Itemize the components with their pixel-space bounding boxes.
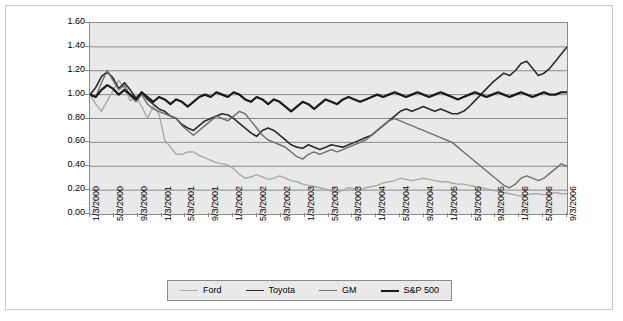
x-axis-tick-mark xyxy=(566,213,567,217)
x-axis-tick-label: 9/3/2001 xyxy=(211,186,220,221)
y-axis-tick-mark xyxy=(85,165,89,166)
y-axis-tick-mark xyxy=(85,189,89,190)
x-axis-tick-mark xyxy=(89,213,90,217)
x-axis-tick-mark xyxy=(232,213,233,217)
y-axis-tick-mark xyxy=(85,70,89,71)
y-axis-tick-mark xyxy=(85,22,89,23)
x-axis-tick-label: 5/3/2001 xyxy=(187,186,196,221)
x-axis-tick-mark xyxy=(328,213,329,217)
x-axis-tick-label: 9/3/2004 xyxy=(426,186,435,221)
y-axis-tick-mark xyxy=(85,213,89,214)
legend-swatch-icon xyxy=(246,290,264,291)
series-line-gm xyxy=(90,71,567,188)
x-axis-tick-mark xyxy=(423,213,424,217)
x-axis-tick-label: 9/3/2002 xyxy=(283,186,292,221)
x-axis-tick-label: 9/3/2000 xyxy=(140,186,149,221)
x-axis-tick-label: 5/3/2003 xyxy=(331,186,340,221)
legend-item-gm[interactable]: GM xyxy=(319,286,357,295)
x-axis-tick-label: 9/3/2003 xyxy=(354,186,363,221)
x-axis-tick-label: 5/3/2004 xyxy=(402,186,411,221)
x-axis-tick-label: 1/3/2003 xyxy=(307,186,316,221)
legend-swatch-icon xyxy=(319,290,337,291)
x-axis-tick-label: 5/3/2005 xyxy=(474,186,483,221)
x-axis-tick-label: 9/3/2006 xyxy=(569,186,578,221)
series-line-s-p-500 xyxy=(90,85,567,111)
legend-label: S&P 500 xyxy=(404,286,439,295)
y-axis-tick-label: 0.20 xyxy=(41,184,85,193)
x-axis-tick-mark xyxy=(137,213,138,217)
x-axis-tick-label: 1/3/2002 xyxy=(235,186,244,221)
x-axis-tick-mark xyxy=(256,213,257,217)
x-axis-tick-mark xyxy=(542,213,543,217)
y-axis-tick-mark xyxy=(85,141,89,142)
legend-swatch-icon xyxy=(180,290,198,291)
x-axis-tick-mark xyxy=(399,213,400,217)
legend-item-ford[interactable]: Ford xyxy=(180,286,222,295)
y-axis-tick-mark xyxy=(85,46,89,47)
x-axis-tick-mark xyxy=(161,213,162,217)
y-axis-tick-label: 0.40 xyxy=(41,160,85,169)
y-axis-tick-mark xyxy=(85,118,89,119)
legend-label: Toyota xyxy=(269,286,296,295)
x-axis-tick-mark xyxy=(280,213,281,217)
x-axis-tick-label: 1/3/2004 xyxy=(378,186,387,221)
x-axis-tick-label: 5/3/2006 xyxy=(545,186,554,221)
legend-label: GM xyxy=(342,286,357,295)
y-axis-tick-mark xyxy=(85,94,89,95)
x-axis-tick-label: 1/3/2006 xyxy=(521,186,530,221)
y-axis-tick-label: 1.40 xyxy=(41,41,85,50)
x-axis-tick-mark xyxy=(447,213,448,217)
legend-label: Ford xyxy=(203,286,222,295)
legend-swatch-icon xyxy=(381,290,399,292)
x-axis-tick-label: 5/3/2000 xyxy=(116,186,125,221)
y-axis-tick-label: 0.00 xyxy=(41,208,85,217)
legend-item-toyota[interactable]: Toyota xyxy=(246,286,296,295)
x-axis-tick-label: 1/3/2000 xyxy=(92,186,101,221)
x-axis: 1/3/20005/3/20009/3/20001/3/20015/3/2001… xyxy=(89,217,568,277)
stock-performance-chart: 1.601.401.201.000.800.600.400.200.00 1/3… xyxy=(0,0,623,321)
x-axis-tick-label: 5/3/2002 xyxy=(259,186,268,221)
y-axis: 1.601.401.201.000.800.600.400.200.00 xyxy=(38,0,85,240)
x-axis-tick-mark xyxy=(304,213,305,217)
legend-item-s-p-500[interactable]: S&P 500 xyxy=(381,286,439,295)
chart-legend: FordToyotaGMS&P 500 xyxy=(167,280,452,301)
y-axis-tick-label: 1.20 xyxy=(41,65,85,74)
x-axis-tick-label: 1/3/2005 xyxy=(450,186,459,221)
y-axis-tick-label: 0.60 xyxy=(41,136,85,145)
x-axis-tick-label: 1/3/2001 xyxy=(164,186,173,221)
x-axis-tick-mark xyxy=(471,213,472,217)
y-axis-tick-label: 0.80 xyxy=(41,113,85,122)
y-axis-tick-label: 1.00 xyxy=(41,89,85,98)
x-axis-tick-mark xyxy=(113,213,114,217)
x-axis-tick-label: 9/3/2005 xyxy=(497,186,506,221)
y-axis-tick-label: 1.60 xyxy=(41,17,85,26)
